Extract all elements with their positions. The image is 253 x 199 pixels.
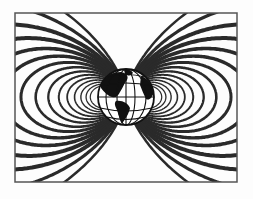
globe xyxy=(98,69,154,125)
magnetic-field-diagram xyxy=(0,0,253,199)
